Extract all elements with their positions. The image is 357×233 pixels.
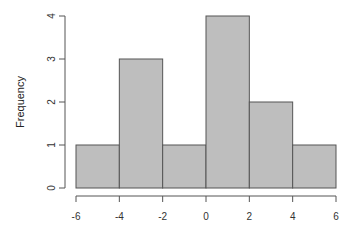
histogram-chart: 01234 -6-4-20246 Frequency: [0, 0, 357, 233]
histogram-bar: [76, 145, 119, 188]
histogram-bar: [249, 102, 292, 188]
y-tick-label: 0: [46, 185, 57, 191]
x-tick-label: 2: [247, 211, 253, 222]
histogram-bar: [293, 145, 336, 188]
x-tick-label: -4: [115, 211, 124, 222]
x-tick-label: 0: [203, 211, 209, 222]
y-axis: 01234: [46, 13, 66, 191]
y-tick-label: 3: [46, 56, 57, 62]
y-axis-title: Frequency: [14, 76, 26, 128]
x-tick-label: 6: [333, 211, 339, 222]
x-tick-label: 4: [290, 211, 296, 222]
y-tick-label: 2: [46, 99, 57, 105]
x-axis: -6-4-20246: [72, 196, 340, 222]
histogram-bar: [206, 16, 249, 188]
x-tick-label: -6: [72, 211, 81, 222]
y-tick-label: 1: [46, 142, 57, 148]
y-tick-label: 4: [46, 13, 57, 19]
histogram-bar: [119, 59, 162, 188]
histogram-bars: [76, 16, 336, 188]
histogram-bar: [163, 145, 206, 188]
x-tick-label: -2: [158, 211, 167, 222]
